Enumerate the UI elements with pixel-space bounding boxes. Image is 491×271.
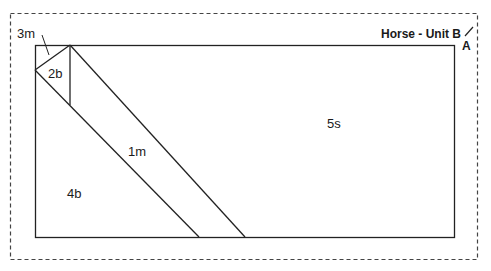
diagonal-left — [35, 70, 199, 237]
corner-tick-mark — [465, 27, 473, 36]
diagram-title: Horse - Unit B — [381, 28, 461, 40]
region-label-4b: 4b — [67, 187, 81, 200]
outer-boundary-dashed — [11, 14, 478, 260]
region-label-3m: 3m — [17, 27, 35, 40]
region-label-1m: 1m — [128, 145, 146, 158]
region-label-2b: 2b — [48, 67, 62, 80]
corner-mark-label: A — [462, 40, 471, 52]
diagonal-right — [70, 45, 245, 237]
paddock-rect — [36, 46, 455, 238]
region-label-5s: 5s — [327, 117, 341, 130]
